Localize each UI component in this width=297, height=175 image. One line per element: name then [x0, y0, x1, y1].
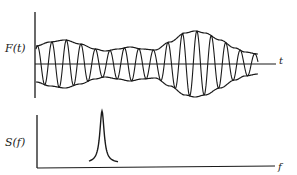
- frequency-axis-label: f: [277, 161, 284, 172]
- time-domain-plot: F(t) t: [4, 12, 284, 98]
- time-plot-y-label: F(t): [4, 42, 26, 55]
- frequency-axis: [37, 166, 275, 168]
- spectrum-plot-y-label: S(f): [5, 136, 25, 149]
- signal-spectrum-diagram: F(t) t S(f) f: [0, 0, 297, 175]
- spectral-peak: [89, 111, 118, 162]
- time-axis-label: t: [279, 55, 284, 66]
- envelope-upper: [36, 31, 258, 54]
- frequency-domain-plot: S(f) f: [5, 111, 284, 172]
